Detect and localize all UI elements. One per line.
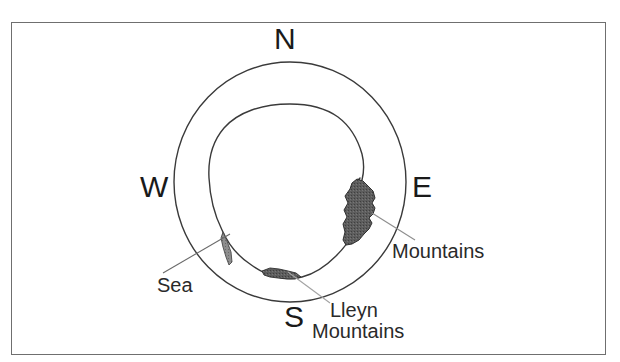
lleyn-leader-line	[288, 272, 330, 303]
diagram-canvas	[0, 0, 620, 362]
compass-label-south: S	[284, 302, 304, 332]
sea-leader-line	[163, 234, 230, 273]
compass-label-west: W	[140, 172, 168, 202]
figure-root: N W E S Sea Mountains Lleyn Mountains	[0, 0, 620, 362]
sea-sliver-region	[221, 232, 232, 265]
annotation-label-mountains: Mountains	[392, 241, 484, 262]
annotation-label-lleyn-line2: Mountains	[312, 321, 404, 342]
inner-coastline-outline	[209, 104, 364, 279]
annotation-label-lleyn-mountains: Lleyn Mountains	[330, 300, 404, 342]
compass-label-north: N	[274, 24, 296, 54]
annotation-label-sea: Sea	[157, 275, 193, 296]
compass-label-east: E	[412, 172, 432, 202]
mountains-east-region	[343, 179, 375, 245]
annotation-label-lleyn-line1: Lleyn	[330, 300, 404, 321]
